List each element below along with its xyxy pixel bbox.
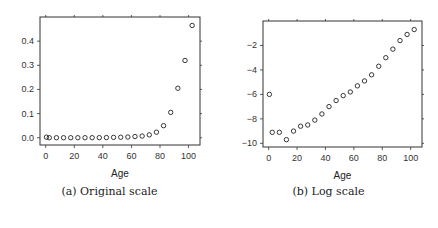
x-tick-label: 0 [266, 153, 271, 163]
panel-log-scale: 020406080100−10−8−6−4−2Age (b) Log scale [219, 0, 438, 228]
data-point [412, 27, 416, 31]
x-tick-label: 60 [126, 151, 136, 161]
data-point [313, 118, 317, 122]
caption-log-scale: (b) Log scale [219, 185, 438, 198]
data-point [104, 135, 108, 139]
data-point [306, 123, 310, 127]
data-point [169, 110, 173, 114]
y-tick-label: 0.1 [21, 109, 34, 119]
x-tick-label: 100 [181, 151, 196, 161]
data-point [183, 58, 187, 62]
data-point [69, 136, 73, 140]
x-tick-label: 100 [403, 153, 418, 163]
data-point [119, 135, 123, 139]
data-point [126, 135, 130, 139]
data-point [270, 130, 274, 134]
x-tick-label: 40 [98, 151, 108, 161]
data-point [133, 134, 137, 138]
data-point [140, 134, 144, 138]
data-point [97, 135, 101, 139]
panel-original-scale: 0204060801000.00.10.20.30.4Age (a) Origi… [0, 0, 219, 228]
y-tick-label: 0.0 [21, 133, 34, 143]
plot-frame [40, 17, 200, 145]
data-point [320, 112, 324, 116]
x-tick-label: 20 [69, 151, 79, 161]
data-point [369, 73, 373, 77]
y-tick-label: −10 [242, 138, 257, 148]
data-point [61, 136, 65, 140]
x-tick-label: 20 [292, 153, 302, 163]
data-point [277, 130, 281, 134]
data-point [111, 135, 115, 139]
data-point [83, 136, 87, 140]
data-point [161, 123, 165, 127]
data-point [47, 136, 51, 140]
x-tick-label: 0 [43, 151, 48, 161]
x-tick-label: 60 [349, 153, 359, 163]
x-axis-title: Age [334, 170, 352, 181]
data-point [334, 98, 338, 102]
x-tick-label: 40 [320, 153, 330, 163]
y-tick-label: −8 [247, 114, 257, 124]
data-point [176, 86, 180, 90]
data-point [54, 136, 58, 140]
data-point [377, 64, 381, 68]
data-point [355, 84, 359, 88]
data-point [154, 130, 158, 134]
y-tick-label: 0.4 [21, 36, 34, 46]
data-point [147, 133, 151, 137]
y-tick-label: −6 [247, 89, 257, 99]
data-point [341, 93, 345, 97]
data-point [284, 137, 288, 141]
x-tick-label: 80 [377, 153, 387, 163]
y-tick-label: 0.2 [21, 84, 34, 94]
data-point [90, 135, 94, 139]
data-point [348, 90, 352, 94]
data-point [405, 32, 409, 36]
x-axis-title: Age [111, 168, 129, 179]
data-point [190, 23, 194, 27]
y-tick-label: 0.3 [21, 60, 34, 70]
data-point [391, 47, 395, 51]
data-point [267, 92, 271, 96]
data-point [327, 104, 331, 108]
y-tick-label: −2 [247, 40, 257, 50]
caption-original-scale: (a) Original scale [0, 185, 219, 198]
data-point [291, 129, 295, 133]
data-point [398, 38, 402, 42]
data-point [362, 79, 366, 83]
data-point [76, 136, 80, 140]
x-tick-label: 80 [155, 151, 165, 161]
y-tick-label: −4 [247, 65, 257, 75]
data-point [298, 124, 302, 128]
data-point [384, 55, 388, 59]
